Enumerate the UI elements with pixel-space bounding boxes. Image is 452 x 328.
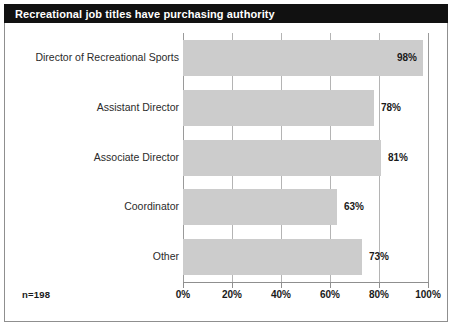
x-tick-label-40: 40%: [271, 289, 291, 300]
x-axis-tick-labels: 0%20%40%60%80%100%: [183, 289, 428, 305]
bar-row: 78%: [183, 90, 428, 126]
bar-value-label: 63%: [344, 189, 364, 225]
bar-row: 81%: [183, 140, 428, 176]
bar: [183, 90, 374, 126]
bar: [183, 140, 381, 176]
x-axis-tick-100: [428, 283, 429, 288]
category-label-2: Associate Director: [9, 151, 179, 163]
page-title: Recreational job titles have purchasing …: [15, 8, 275, 20]
bar: [183, 189, 337, 225]
x-tick-label-80: 80%: [369, 289, 389, 300]
category-label-4: Other: [9, 250, 179, 262]
bar-value-label: 98%: [383, 40, 417, 76]
category-axis-labels: Director of Recreational SportsAssistant…: [5, 33, 179, 282]
x-axis-tick-60: [330, 283, 331, 288]
x-axis-tick-0: [183, 283, 184, 288]
chart-figure: Recreational job titles have purchasing …: [0, 0, 452, 328]
x-tick-label-0: 0%: [176, 289, 190, 300]
category-label-3: Coordinator: [9, 200, 179, 212]
x-axis-tick-40: [281, 283, 282, 288]
x-tick-label-100: 100%: [415, 289, 441, 300]
category-label-1: Assistant Director: [9, 101, 179, 113]
bar-row: 73%: [183, 239, 428, 275]
bar-value-label: 78%: [381, 90, 401, 126]
x-axis-tick-20: [232, 283, 233, 288]
x-axis-tick-80: [379, 283, 380, 288]
plot-area: 98%78%81%63%73%: [183, 33, 428, 282]
bar-row: 98%: [183, 40, 428, 76]
sample-size-note: n=198: [22, 289, 50, 300]
bar: [183, 239, 362, 275]
x-tick-label-60: 60%: [320, 289, 340, 300]
x-axis-line: [183, 282, 429, 283]
x-tick-label-20: 20%: [222, 289, 242, 300]
chart-title-bar: Recreational job titles have purchasing …: [4, 4, 448, 23]
bar-value-label: 73%: [369, 239, 389, 275]
category-label-0: Director of Recreational Sports: [9, 51, 179, 63]
gridline-100: [428, 33, 429, 282]
bar-row: 63%: [183, 189, 428, 225]
bar-value-label: 81%: [388, 140, 408, 176]
